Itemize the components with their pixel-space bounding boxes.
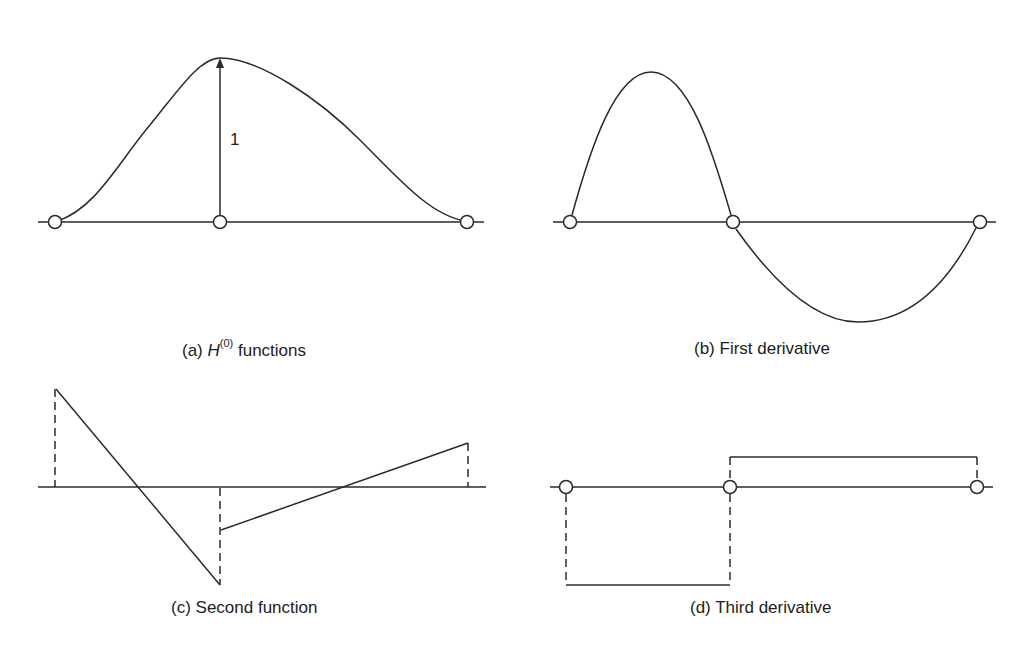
panel-a-curve: [57, 58, 465, 221]
node-marker: [214, 216, 227, 229]
panel-b-curve: [572, 72, 976, 322]
node-marker: [974, 216, 987, 229]
panel-b-caption: (b) First derivative: [694, 339, 830, 359]
panel-a-value-label: 1: [230, 130, 239, 150]
caption-prefix: (a): [182, 341, 208, 360]
node-marker: [971, 481, 984, 494]
caption-superscript: (0): [220, 337, 233, 349]
node-marker: [560, 481, 573, 494]
node-marker: [724, 481, 737, 494]
panel-b-plot: [553, 72, 996, 322]
panel-d-caption: (d) Third derivative: [690, 598, 831, 618]
arrowhead-icon: [216, 58, 224, 68]
panel-c-caption: (c) Second function: [171, 598, 317, 618]
node-marker: [461, 216, 474, 229]
caption-symbol: H: [208, 341, 220, 360]
panel-a-caption: (a) H(0) functions: [182, 339, 306, 361]
node-marker: [49, 216, 62, 229]
caption-suffix: functions: [233, 341, 306, 360]
panel-c-plot: [38, 389, 486, 585]
panel-a-plot: [38, 58, 484, 229]
node-marker: [727, 216, 740, 229]
figure-canvas: [0, 0, 1031, 646]
panel-d-plot: [550, 457, 993, 585]
node-marker: [564, 216, 577, 229]
